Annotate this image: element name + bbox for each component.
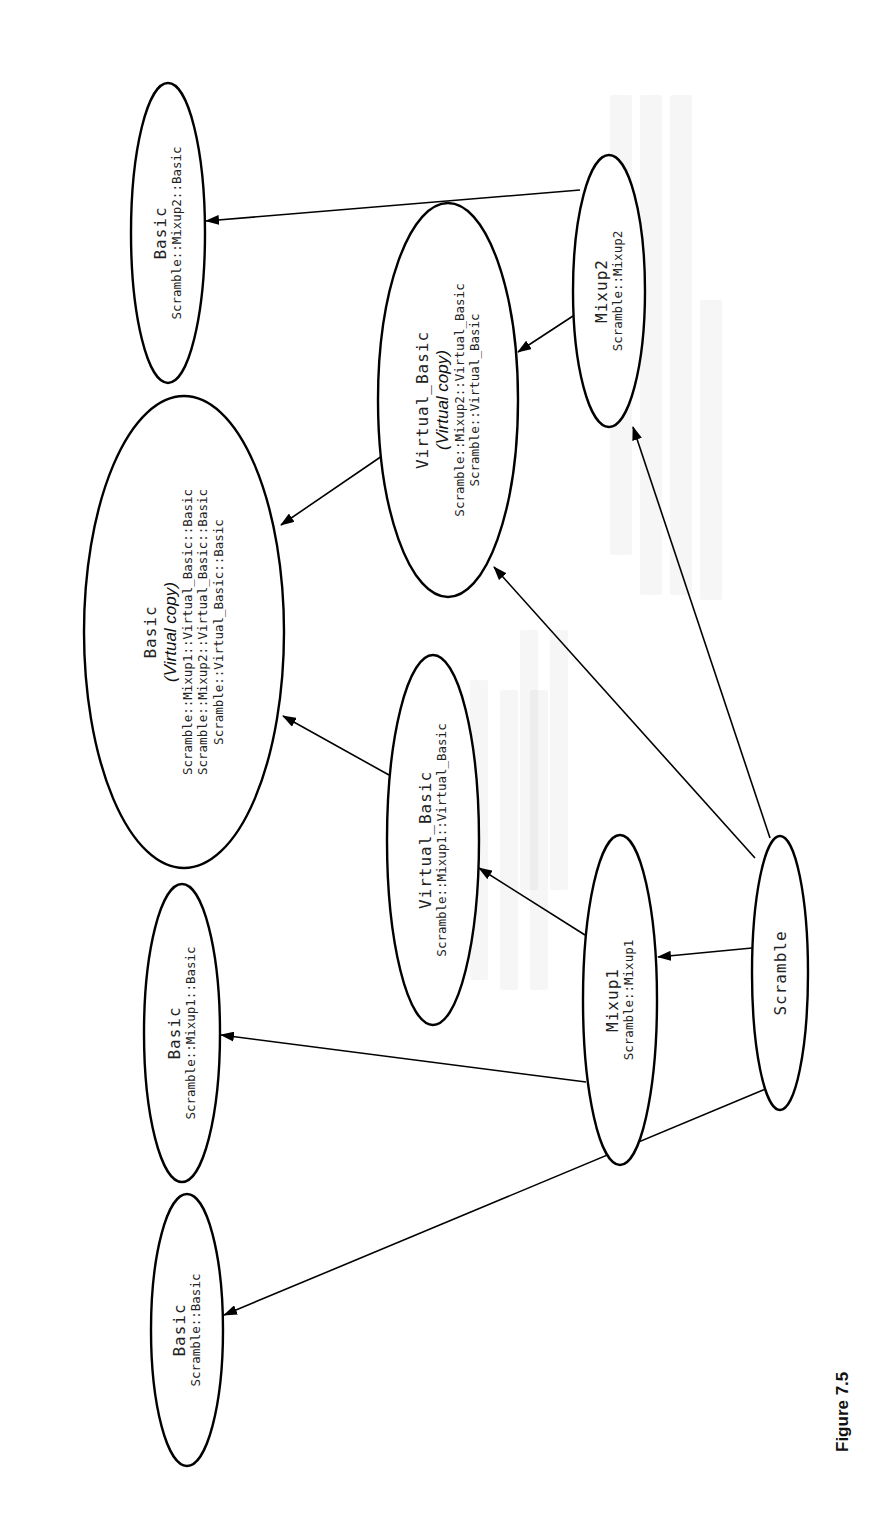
arrow-icon bbox=[283, 716, 389, 775]
arrow-icon bbox=[633, 427, 770, 838]
edge-scramble-to-basic_scramble bbox=[224, 1088, 768, 1315]
nodes-layer: BasicScramble::Mixup2::BasicBasic(Virtua… bbox=[84, 83, 808, 1466]
node-title: Basic bbox=[165, 1006, 184, 1059]
edge-mixup1-to-basic_mixup1 bbox=[221, 1035, 586, 1082]
node-qualified-name: Scramble::Mixup2::Virtual_Basic::Basic bbox=[195, 489, 210, 775]
node-title: Basic bbox=[151, 206, 170, 259]
arrow-icon bbox=[518, 316, 573, 352]
node-qualified-name: Scramble::Virtual_Basic::Basic bbox=[211, 519, 226, 745]
node-title: Basic bbox=[170, 1303, 189, 1356]
node-title: Mixup1 bbox=[603, 968, 622, 1032]
node-qualified-name: Scramble::Mixup1::Virtual_Basic::Basic bbox=[180, 489, 195, 775]
edge-mixup1-to-virtual_basic_mixup1 bbox=[479, 868, 585, 935]
node-title: Basic bbox=[141, 605, 160, 658]
arrow-icon bbox=[281, 456, 382, 525]
arrow-icon bbox=[658, 948, 752, 957]
node-label-group: Scramble bbox=[771, 930, 790, 1015]
arrow-icon bbox=[206, 190, 580, 221]
node-virtual-basic-mixup1: Virtual_BasicScramble::Mixup1::Virtual_B… bbox=[387, 655, 479, 1025]
edge-mixup2-to-virtual_basic_virtual bbox=[518, 316, 573, 352]
arrow-icon bbox=[479, 868, 585, 935]
node-basic-mixup2: BasicScramble::Mixup2::Basic bbox=[131, 83, 205, 383]
node-mixup1: Mixup1Scramble::Mixup1 bbox=[583, 835, 657, 1165]
arrow-icon bbox=[494, 567, 755, 858]
node-basic-scramble: BasicScramble::Basic bbox=[151, 1194, 223, 1466]
node-scramble: Scramble bbox=[752, 836, 808, 1110]
inheritance-diagram: BasicScramble::Mixup2::BasicBasic(Virtua… bbox=[0, 0, 879, 1528]
node-qualified-name: Scramble::Virtual_Basic bbox=[467, 313, 482, 486]
arrow-icon bbox=[221, 1035, 586, 1082]
node-qualified-name: Scramble::Mixup2 bbox=[610, 231, 625, 351]
arrow-icon bbox=[224, 1088, 768, 1315]
edge-mixup2-to-basic_mixup2 bbox=[206, 190, 580, 221]
node-title: Scramble bbox=[771, 930, 790, 1015]
node-title: Mixup2 bbox=[592, 259, 611, 323]
node-qualified-name: Scramble::Mixup1::Virtual_Basic bbox=[434, 723, 449, 956]
node-title: Virtual_Basic bbox=[416, 771, 435, 909]
node-basic-virtual: Basic(Virtual copy)Scramble::Mixup1::Vir… bbox=[84, 396, 284, 868]
node-virtual-label: (Virtual copy) bbox=[433, 350, 452, 450]
edge-scramble-to-mixup1 bbox=[658, 948, 752, 957]
edge-virtual_basic_virtual-to-basic_virtual bbox=[281, 456, 382, 525]
edge-scramble-to-virtual_basic_virtual bbox=[494, 567, 755, 858]
node-qualified-name: Scramble::Mixup2::Basic bbox=[169, 146, 184, 319]
node-basic-mixup1: BasicScramble::Mixup1::Basic bbox=[144, 884, 220, 1182]
edge-virtual_basic_mixup1-to-basic_virtual bbox=[283, 716, 389, 775]
node-qualified-name: Scramble::Mixup1 bbox=[621, 940, 636, 1060]
node-qualified-name: Scramble::Mixup2::Virtual_Basic bbox=[452, 283, 467, 516]
node-qualified-name: Scramble::Basic bbox=[188, 1274, 203, 1387]
node-virtual-label: (Virtual copy) bbox=[161, 582, 180, 682]
node-virtual-basic-virtual: Virtual_Basic(Virtual copy)Scramble::Mix… bbox=[378, 203, 518, 597]
figure-caption: Figure 7.5 bbox=[833, 1372, 852, 1452]
node-mixup2: Mixup2Scramble::Mixup2 bbox=[573, 155, 645, 427]
node-title: Virtual_Basic bbox=[413, 331, 432, 469]
node-qualified-name: Scramble::Mixup1::Basic bbox=[183, 946, 198, 1119]
edge-scramble-to-mixup2 bbox=[633, 427, 770, 838]
